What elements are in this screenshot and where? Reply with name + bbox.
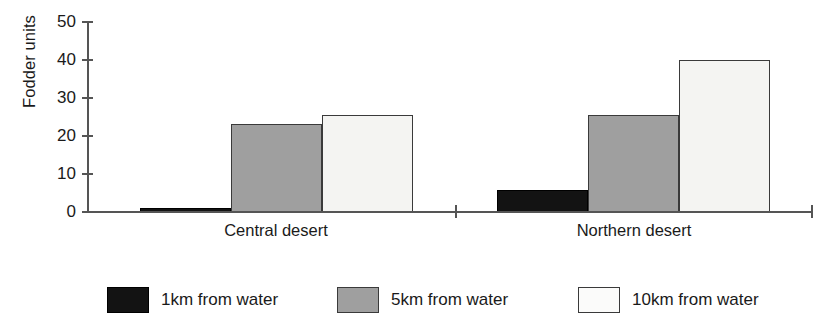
legend-item-5km: 5km from water <box>337 284 508 316</box>
chart-page: Fodder units 50 40 30 20 10 0 Cent <box>0 0 832 334</box>
legend-swatch-5km <box>337 287 379 313</box>
y-tick-mark-10 <box>82 173 93 175</box>
chart-legend: 1km from water 5km from water 10km from … <box>0 284 832 324</box>
y-axis-title: Fodder units <box>20 0 39 147</box>
y-tick-label-50: 50 <box>42 13 76 30</box>
y-tick-label-0: 0 <box>42 203 76 220</box>
bar-chart-plot-area: Fodder units 50 40 30 20 10 0 Cent <box>0 0 832 260</box>
bar-central-desert-5km <box>231 124 322 213</box>
legend-label-5km: 5km from water <box>391 290 508 310</box>
x-tick-mark-group-divider <box>455 205 457 218</box>
bar-northern-desert-5km <box>588 115 679 213</box>
y-tick-label-20: 20 <box>42 127 76 144</box>
bar-northern-desert-10km <box>679 60 770 213</box>
legend-label-1km: 1km from water <box>161 290 278 310</box>
y-tick-mark-30 <box>82 97 93 99</box>
y-tick-label-10: 10 <box>42 165 76 182</box>
y-axis-tick-labels: 50 40 30 20 10 0 <box>42 0 76 260</box>
x-tick-mark-end <box>811 205 813 218</box>
legend-item-1km: 1km from water <box>107 284 278 316</box>
legend-item-10km: 10km from water <box>578 284 759 316</box>
y-tick-mark-20 <box>82 135 93 137</box>
legend-label-10km: 10km from water <box>632 290 759 310</box>
legend-swatch-1km <box>107 287 149 313</box>
x-axis-line <box>87 211 813 213</box>
y-tick-mark-40 <box>82 59 93 61</box>
bar-northern-desert-1km <box>497 190 588 213</box>
x-category-label-central-desert: Central desert <box>201 221 351 240</box>
legend-swatch-10km <box>578 287 620 313</box>
y-tick-mark-50 <box>82 21 93 23</box>
y-axis-line <box>87 21 89 212</box>
y-tick-label-30: 30 <box>42 89 76 106</box>
x-category-label-northern-desert: Northern desert <box>559 221 709 240</box>
y-tick-label-40: 40 <box>42 51 76 68</box>
bar-central-desert-10km <box>322 115 413 213</box>
